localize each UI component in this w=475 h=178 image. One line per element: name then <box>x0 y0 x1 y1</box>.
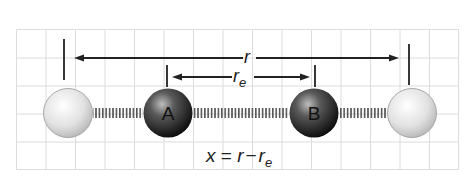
atom-A: A <box>144 89 193 138</box>
atom-right-displaced <box>388 89 437 138</box>
atom-A-label: A <box>162 103 175 124</box>
re-right-arrowhead <box>300 74 310 81</box>
bond-length-diagram: r re A B x = r−re <box>0 0 475 178</box>
re-left-arrowhead <box>172 74 182 81</box>
atom-B: B <box>290 89 339 138</box>
r-label: r <box>244 47 251 67</box>
bond-B-to-right <box>339 108 387 118</box>
bond-left-to-A <box>93 108 143 118</box>
bond-lines <box>93 108 387 118</box>
r-right-arrowhead <box>389 55 399 62</box>
displacement-equation: x = r−re <box>205 145 272 170</box>
bond-A-to-B <box>193 108 289 118</box>
atom-left-displaced <box>44 89 93 138</box>
atom-B-label: B <box>308 103 321 124</box>
